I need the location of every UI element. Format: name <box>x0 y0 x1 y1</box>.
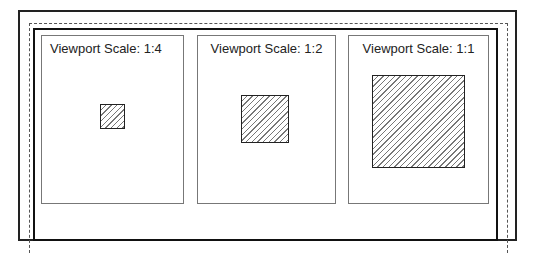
viewport-panel-1-2[interactable]: Viewport Scale: 1:2 <box>197 35 336 204</box>
viewport-title: Viewport Scale: 1:2 <box>198 41 335 56</box>
viewport-title: Viewport Scale: 1:1 <box>349 41 488 56</box>
viewport-panel-1-1[interactable]: Viewport Scale: 1:1 <box>348 35 489 204</box>
viewport-panel-1-4[interactable]: Viewport Scale: 1:4 <box>41 35 184 204</box>
hatched-square <box>372 75 465 168</box>
viewport-title: Viewport Scale: 1:4 <box>42 41 183 56</box>
hatched-square <box>100 104 125 129</box>
hatched-square <box>241 95 289 143</box>
